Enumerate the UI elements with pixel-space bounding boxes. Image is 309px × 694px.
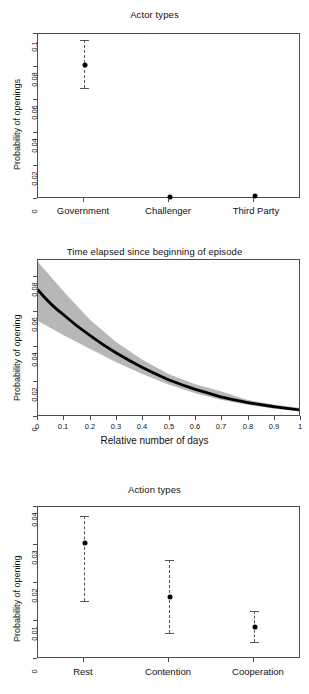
y-tick-actor-0: 0 bbox=[30, 201, 39, 223]
x-tickmark-cooperation bbox=[253, 658, 254, 662]
x-tickmark-challenger bbox=[168, 198, 169, 202]
x-tickmark-contention bbox=[168, 658, 169, 662]
y-axis-label-time-elapsed: Probability of opening bbox=[12, 314, 22, 401]
x-tickmark-time-05 bbox=[169, 416, 170, 420]
x-label-challenger: Challenger bbox=[145, 205, 191, 216]
x-tickmark-time-02 bbox=[90, 416, 91, 420]
chart-title-time-elapsed: Time elapsed since beginning of episode bbox=[0, 246, 309, 257]
y-axis-label-action-types: Probability of opening bbox=[12, 555, 22, 642]
x-tickmark-time-01 bbox=[63, 416, 64, 420]
chart-title-actor-types: Actor types bbox=[0, 9, 309, 20]
error-cap-upper-cooperation bbox=[250, 611, 259, 612]
x-tickmark-time-04 bbox=[142, 416, 143, 420]
y-axis-label-actor-types: Probability of openings bbox=[12, 79, 22, 170]
x-label-time-0: 0 bbox=[35, 422, 39, 431]
error-bar-rest bbox=[84, 516, 85, 601]
x-label-contention: Contention bbox=[145, 666, 191, 677]
x-tickmark-rest bbox=[83, 658, 84, 662]
x-tickmark-time-06 bbox=[195, 416, 196, 420]
x-label-time-09: 0.9 bbox=[269, 422, 279, 431]
x-tickmark-time-03 bbox=[116, 416, 117, 420]
x-label-time-07: 0.7 bbox=[216, 422, 226, 431]
x-label-rest: Rest bbox=[73, 666, 93, 677]
x-tickmark-government bbox=[83, 198, 84, 202]
data-point-contention bbox=[167, 594, 172, 599]
error-cap-upper-government bbox=[80, 40, 89, 41]
x-label-government: Government bbox=[57, 205, 109, 216]
y-tick-action-0: 0 bbox=[30, 661, 39, 683]
error-cap-lower-contention bbox=[165, 633, 174, 634]
error-cap-upper-contention bbox=[165, 560, 174, 561]
plot-area-time-elapsed bbox=[37, 259, 300, 416]
x-label-time-01: 0.1 bbox=[58, 422, 68, 431]
x-label-time-03: 0.3 bbox=[111, 422, 121, 431]
error-cap-lower-rest bbox=[80, 601, 89, 602]
figure-panel-stack: Actor types Probability of openings 0 0.… bbox=[0, 0, 309, 694]
x-label-time-1: 1 bbox=[298, 422, 302, 431]
chart-title-action-types: Action types bbox=[0, 484, 309, 495]
x-label-time-08: 0.8 bbox=[243, 422, 253, 431]
error-cap-lower-government bbox=[80, 88, 89, 89]
x-tickmark-time-07 bbox=[221, 416, 222, 420]
y-tickmark-actor-0 bbox=[33, 198, 37, 199]
data-point-rest bbox=[82, 541, 87, 546]
x-tickmark-time-09 bbox=[274, 416, 275, 420]
x-tickmark-time-08 bbox=[248, 416, 249, 420]
x-label-time-06: 0.6 bbox=[190, 422, 200, 431]
x-tickmark-time-1 bbox=[300, 416, 301, 420]
x-tickmark-time-0 bbox=[37, 416, 38, 420]
x-label-third-party: Third Party bbox=[233, 205, 279, 216]
error-cap-upper-rest bbox=[80, 516, 89, 517]
x-label-time-02: 0.2 bbox=[85, 422, 95, 431]
x-axis-label-time-elapsed: Relative number of days bbox=[0, 435, 309, 446]
data-point-cooperation bbox=[252, 624, 257, 629]
chart-actor-types: Actor types Probability of openings 0 0.… bbox=[0, 0, 309, 232]
plot-area-action-types bbox=[37, 506, 300, 658]
confidence-band bbox=[38, 262, 299, 411]
chart-action-types: Action types Probability of opening 0 0.… bbox=[0, 470, 309, 694]
plot-area-actor-types bbox=[37, 33, 300, 198]
decay-curve-svg bbox=[38, 260, 299, 415]
chart-time-elapsed: Time elapsed since beginning of episode … bbox=[0, 238, 309, 460]
x-label-cooperation: Cooperation bbox=[232, 666, 284, 677]
y-tickmark-action-0 bbox=[33, 658, 37, 659]
data-point-government bbox=[82, 62, 87, 67]
error-cap-lower-cooperation bbox=[250, 642, 259, 643]
x-label-time-04: 0.4 bbox=[137, 422, 147, 431]
x-tickmark-third-party bbox=[253, 198, 254, 202]
x-label-time-05: 0.5 bbox=[164, 422, 174, 431]
